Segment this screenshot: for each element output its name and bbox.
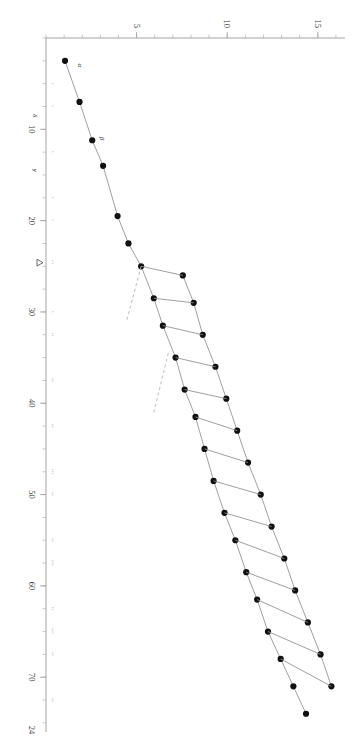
- plot-canvas: 1020304050607024▫▫▫▫▫▫▫▫▫▫▫▫▫▫▫▫▫▫▫▫▫▫▫▫…: [0, 0, 361, 746]
- annotation-beta: β: [98, 136, 106, 141]
- data-point[interactable]: [89, 137, 95, 143]
- x-axis-micro-label: ▫▫: [50, 538, 56, 542]
- data-point[interactable]: [100, 163, 106, 169]
- data-point[interactable]: [303, 711, 309, 717]
- series-segment-connector-rungs: [235, 540, 284, 558]
- y-axis-tick-label: 15: [313, 20, 323, 29]
- series-segment-connector-rungs: [224, 513, 271, 527]
- series-segment-connector-rungs: [163, 326, 203, 335]
- series-segment-dashed-branches: [127, 266, 141, 321]
- data-point[interactable]: [212, 364, 218, 370]
- x-axis-tick-label: 40: [27, 399, 37, 408]
- x-axis-tick-label: 20: [27, 216, 37, 225]
- x-axis-micro-label: ▫▫: [50, 424, 56, 428]
- x-axis-micro-label: ▫: [50, 83, 56, 85]
- x-axis-micro-label: ▫: [50, 311, 56, 313]
- x-axis-micro-label: ▫: [50, 105, 56, 107]
- y-axis-tick-label: 5: [132, 24, 142, 28]
- data-point[interactable]: [62, 58, 68, 64]
- delta-axis-marker-icon: [37, 259, 43, 266]
- data-point[interactable]: [200, 332, 206, 338]
- x-axis-micro-label: ▫▫▫: [50, 560, 56, 566]
- x-axis-micro-label: ▫▫: [50, 333, 56, 337]
- x-axis-end-label: 24: [27, 726, 37, 735]
- x-axis-micro-label: ▫: [50, 151, 56, 153]
- x-axis-micro-label: ▫▫▫: [50, 628, 56, 634]
- y-axis-tick-label: 10: [222, 20, 232, 29]
- data-point[interactable]: [125, 240, 131, 246]
- series-segment-connector-rungs: [196, 417, 238, 431]
- scatter-plot-svg: 1020304050607024▫▫▫▫▫▫▫▫▫▫▫▫▫▫▫▫▫▫▫▫▫▫▫▫…: [0, 0, 361, 746]
- series-segment-dashed-branches: [154, 353, 168, 412]
- data-point[interactable]: [76, 99, 82, 105]
- annotation-gamma: γ: [31, 169, 39, 172]
- data-point[interactable]: [292, 587, 298, 593]
- data-point[interactable]: [305, 619, 311, 625]
- x-axis-tick-label: 50: [27, 490, 37, 499]
- x-axis-micro-label: ▫▫: [50, 261, 56, 265]
- x-axis-micro-label: ▫▫: [50, 378, 56, 382]
- data-point[interactable]: [290, 683, 296, 689]
- x-axis-micro-label: ▫▫: [50, 698, 56, 702]
- series-segment-connector-rungs: [246, 572, 295, 590]
- x-axis-micro-label: ▫: [50, 197, 56, 199]
- series-segment-connector-rungs: [141, 266, 183, 275]
- x-axis-tick-label: 30: [27, 308, 37, 317]
- data-point[interactable]: [328, 683, 334, 689]
- x-axis-micro-label: ▫▫: [50, 493, 56, 497]
- series-segment-connector-rungs: [214, 481, 261, 495]
- figure-rotator: 1020304050607024▫▫▫▫▫▫▫▫▫▫▫▫▫▫▫▫▫▫▫▫▫▫▫▫…: [0, 0, 361, 746]
- annotation-delta: δ: [31, 114, 39, 118]
- series-segment-connector-rungs: [185, 390, 227, 399]
- x-axis-tick-label: 60: [27, 582, 37, 591]
- data-point[interactable]: [281, 555, 287, 561]
- series-segment-connector-rungs: [154, 298, 194, 303]
- series-segment-connector-rungs: [176, 358, 216, 367]
- series-segment-connector-rungs: [205, 449, 248, 463]
- annotation-alpha: α: [76, 64, 84, 68]
- x-axis-tick-label: 10: [27, 125, 37, 134]
- x-axis-micro-label: ▫▫: [50, 607, 56, 611]
- data-point[interactable]: [317, 651, 323, 657]
- data-point[interactable]: [269, 523, 275, 529]
- x-axis-micro-label: ▫▫: [50, 652, 56, 656]
- x-axis-tick-label: 70: [27, 673, 37, 682]
- x-axis-micro-label: ▫▫▫: [50, 469, 56, 475]
- data-point[interactable]: [114, 213, 120, 219]
- x-axis-micro-label: ▫: [50, 220, 56, 222]
